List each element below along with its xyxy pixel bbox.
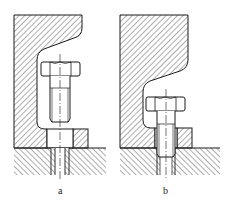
panel-label-a: a xyxy=(58,185,63,196)
panel-a: a xyxy=(14,15,106,196)
technical-drawing: a b xyxy=(0,0,225,205)
bracket-body-a xyxy=(14,15,82,148)
collar-right-b xyxy=(177,128,192,148)
collar-right-a xyxy=(73,129,88,148)
panel-label-b: b xyxy=(163,185,168,196)
panel-b: b xyxy=(120,15,220,196)
bolt-a xyxy=(41,62,80,122)
